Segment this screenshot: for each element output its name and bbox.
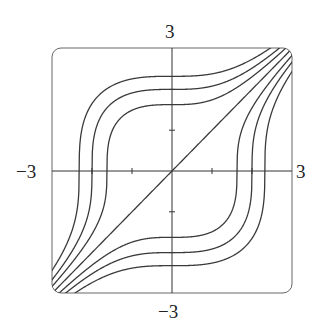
- y-min-label: −3: [158, 302, 178, 321]
- y-max-label: 3: [165, 22, 175, 41]
- x-max-label: 3: [296, 162, 306, 181]
- x-min-label: −3: [16, 162, 36, 181]
- plot-area: [0, 0, 328, 333]
